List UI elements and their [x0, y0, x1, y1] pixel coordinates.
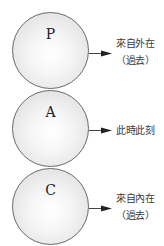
label-a: 此時此刻	[116, 122, 155, 139]
label-p: 來自外在 （過去）	[116, 35, 155, 69]
label-c-line1: 來自內在	[116, 190, 155, 207]
circle-c: C	[12, 168, 89, 245]
label-a-line1: 此時此刻	[116, 122, 155, 139]
circle-letter-p: P	[13, 27, 88, 41]
circle-a: A	[12, 90, 89, 167]
arrow-right-icon	[89, 127, 113, 134]
circle-letter-c: C	[13, 183, 88, 197]
label-c: 來自內在 （過去）	[116, 190, 155, 224]
label-p-line2: （過去）	[116, 52, 155, 69]
pac-diagram: P 來自外在 （過去） A 此時此刻 C 來自內在 （過去）	[0, 0, 164, 246]
label-c-line2: （過去）	[116, 207, 155, 224]
arrow-right-icon	[89, 205, 113, 212]
circle-letter-a: A	[13, 105, 88, 119]
label-p-line1: 來自外在	[116, 35, 155, 52]
circle-p: P	[12, 12, 89, 89]
arrow-right-icon	[89, 50, 113, 57]
